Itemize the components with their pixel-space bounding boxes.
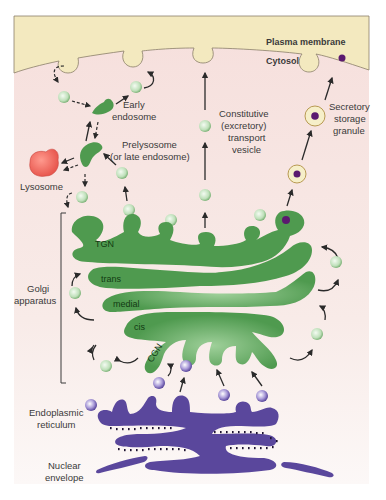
prelysosome-label: (or late endosome) bbox=[110, 151, 190, 162]
nuclear-envelope-label: envelope bbox=[45, 472, 84, 483]
fusing-granule-core bbox=[339, 55, 346, 62]
secretory-granule-label: granule bbox=[333, 125, 365, 136]
secretory-granule-label: Secretory bbox=[329, 101, 370, 112]
vesicle-green bbox=[254, 209, 266, 221]
nuclear-envelope-label: Nuclear bbox=[48, 460, 81, 471]
er-label: reticulum bbox=[37, 419, 76, 430]
secretory-granule-core bbox=[294, 171, 301, 178]
vesicle-green bbox=[100, 360, 112, 372]
constitutive-vesicle-label: (excretory) bbox=[221, 120, 266, 131]
vesicle-green bbox=[199, 189, 211, 201]
vesicle-purple bbox=[218, 389, 230, 401]
vesicle-green bbox=[199, 120, 211, 132]
vesicle-green bbox=[69, 287, 81, 299]
vesicle-green bbox=[58, 91, 70, 103]
early-endosome-label: endosome bbox=[112, 111, 156, 122]
secretory-granule-core bbox=[311, 112, 319, 120]
vesicle-purple bbox=[180, 360, 192, 372]
constitutive-vesicle-label: transport bbox=[228, 132, 266, 143]
early-endosome-label: Early bbox=[123, 99, 145, 110]
cytosol-label: Cytosol bbox=[266, 56, 299, 66]
vesicle-green bbox=[130, 81, 142, 93]
vesicle-purple bbox=[153, 377, 165, 389]
tgn-label: TGN bbox=[95, 239, 114, 249]
vesicle-purple bbox=[256, 390, 268, 402]
plasma-membrane-label: Plasma membrane bbox=[266, 37, 346, 47]
vesicle-purple bbox=[85, 399, 97, 411]
golgi-apparatus-label: apparatus bbox=[14, 295, 57, 306]
lysosome-icon bbox=[30, 149, 59, 176]
constitutive-vesicle-label: Constitutive bbox=[219, 108, 269, 119]
vesicle-green bbox=[330, 256, 342, 268]
medial-label: medial bbox=[113, 299, 140, 309]
prelysosome-label: Prelysosome bbox=[122, 139, 177, 150]
cis-label: cis bbox=[134, 322, 145, 332]
constitutive-vesicle-label: vesicle bbox=[232, 144, 261, 155]
vesicle-green bbox=[311, 328, 323, 340]
golgi-apparatus-label: Golgi bbox=[27, 283, 49, 294]
lysosome-label: Lysosome bbox=[20, 181, 63, 192]
golgi-trafficking-diagram: Plasma membrane Cytosol Early endosome P… bbox=[0, 0, 386, 500]
er-label: Endoplasmic bbox=[29, 407, 84, 418]
golgi-granule-core bbox=[282, 216, 290, 224]
vesicle-green bbox=[116, 167, 128, 179]
vesicle-green bbox=[76, 191, 88, 203]
secretory-granule-label: storage bbox=[334, 113, 366, 124]
trans-label: trans bbox=[101, 274, 122, 284]
